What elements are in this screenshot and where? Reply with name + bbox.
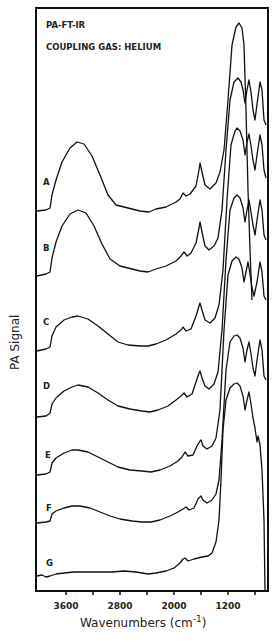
curve-e — [37, 257, 266, 475]
curve-label-a: A — [43, 177, 50, 187]
x-tick-label: 3600 — [53, 601, 78, 611]
chart-title: PA-FT-IR — [46, 20, 86, 30]
chart-subtitle: COUPLING GAS: HELIUM — [46, 42, 161, 52]
curve-g — [37, 383, 265, 590]
curve-label-d: D — [43, 381, 50, 391]
spectrum-curves — [37, 23, 266, 590]
spectra-chart: PA-FT-IR COUPLING GAS: HELIUM ABCDEFG 36… — [0, 0, 274, 643]
x-tick-label: 2000 — [161, 601, 186, 611]
x-axis-ticks: 3600280020001200 — [53, 591, 255, 611]
plot-frame — [36, 8, 268, 591]
curve-d — [37, 195, 266, 417]
curve-label-b: B — [43, 243, 49, 253]
curve-a — [37, 23, 252, 300]
x-tick-label: 2800 — [107, 601, 132, 611]
curve-label-g: G — [46, 558, 53, 568]
curve-label-e: E — [45, 450, 51, 460]
curve-label-f: F — [46, 503, 52, 513]
y-axis-label: PA Signal — [8, 315, 22, 370]
x-tick-label: 1200 — [215, 601, 240, 611]
curve-label-c: C — [43, 317, 49, 327]
curve-f — [37, 335, 266, 523]
curve-c — [37, 128, 266, 351]
curve-labels: ABCDEFG — [43, 177, 53, 568]
curve-b — [37, 78, 266, 276]
x-axis-label: Wavenumbers (cm-1) — [80, 614, 206, 630]
